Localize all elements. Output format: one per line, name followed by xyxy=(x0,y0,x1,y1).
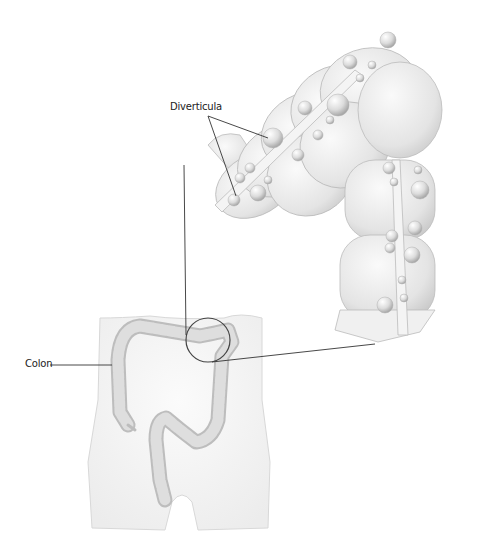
illustration xyxy=(0,0,486,540)
label-diverticula: Diverticula xyxy=(170,101,222,112)
label-colon: Colon xyxy=(25,358,52,369)
diagram-canvas: Diverticula Colon xyxy=(0,0,486,540)
